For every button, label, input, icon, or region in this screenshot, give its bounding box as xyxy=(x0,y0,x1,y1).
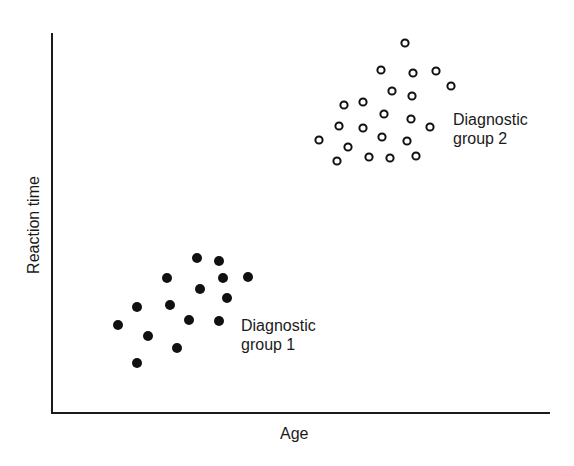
data-point xyxy=(132,358,142,368)
data-point xyxy=(222,293,232,303)
data-point xyxy=(184,315,194,325)
data-point xyxy=(380,110,387,117)
group-2-label-line2: group 2 xyxy=(453,129,528,148)
data-point xyxy=(165,300,175,310)
data-point xyxy=(344,143,351,150)
data-point xyxy=(401,39,408,46)
data-point xyxy=(409,69,416,76)
group-1-annotation: Diagnostic group 1 xyxy=(241,316,316,354)
data-point xyxy=(386,154,393,161)
data-point xyxy=(143,331,153,341)
data-point xyxy=(218,273,228,283)
group-2-points xyxy=(315,39,454,164)
x-axis-label: Age xyxy=(280,425,308,443)
data-point xyxy=(432,67,439,74)
data-point xyxy=(214,256,224,266)
data-point xyxy=(333,157,340,164)
data-point xyxy=(214,316,224,326)
data-point xyxy=(447,82,454,89)
data-point xyxy=(403,137,410,144)
data-point xyxy=(315,136,322,143)
group-2-label-line1: Diagnostic xyxy=(453,110,528,129)
data-point xyxy=(365,153,372,160)
data-point xyxy=(340,101,347,108)
data-point xyxy=(359,98,366,105)
scatter-plot xyxy=(0,0,574,466)
data-point xyxy=(113,320,123,330)
data-point xyxy=(408,92,415,99)
data-point xyxy=(388,87,395,94)
data-point xyxy=(407,115,414,122)
data-point xyxy=(195,284,205,294)
data-point xyxy=(359,124,366,131)
group-2-annotation: Diagnostic group 2 xyxy=(453,110,528,148)
data-point xyxy=(172,343,182,353)
data-point xyxy=(377,66,384,73)
data-point xyxy=(192,253,202,263)
data-point xyxy=(335,122,342,129)
data-point xyxy=(378,133,385,140)
group-1-label-line2: group 1 xyxy=(241,335,316,354)
data-point xyxy=(162,273,172,283)
data-point xyxy=(412,152,419,159)
data-point xyxy=(426,123,433,130)
y-axis-label: Reaction time xyxy=(25,176,43,274)
data-point xyxy=(132,302,142,312)
group-1-label-line1: Diagnostic xyxy=(241,316,316,335)
data-point xyxy=(243,272,253,282)
group-1-points xyxy=(113,253,253,368)
